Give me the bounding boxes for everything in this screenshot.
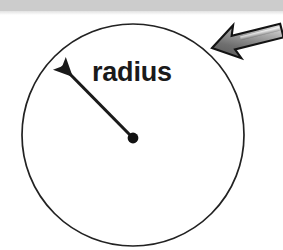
circle-radius-illustration [0,0,283,250]
diagram-canvas: radius [0,0,283,250]
pointer-arrow [208,14,283,64]
radius-label: radius [92,57,172,87]
circle-center-dot [128,133,139,144]
